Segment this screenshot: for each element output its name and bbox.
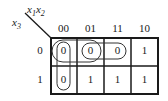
grouping-loops [0, 0, 168, 101]
group-column-00 [57, 42, 70, 90]
group-row0-01-11 [82, 43, 126, 59]
